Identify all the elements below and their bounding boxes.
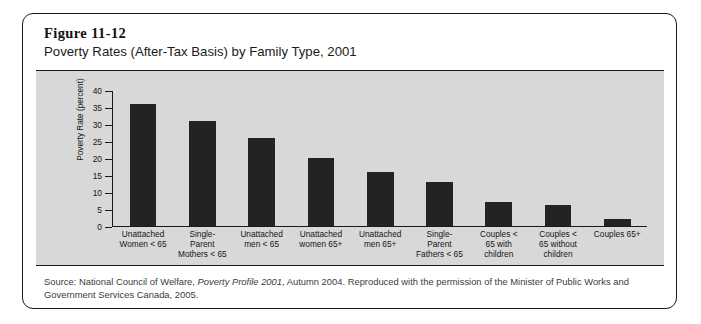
bar-series	[113, 91, 647, 226]
x-axis-label: Unattachedwomen 65+	[291, 229, 350, 249]
bar-slot	[232, 91, 291, 226]
x-axis-label-line: Parent	[411, 239, 468, 249]
bar	[545, 205, 572, 225]
bar-slot	[113, 91, 172, 226]
x-axis-label: Couples <65 withoutchildren	[528, 229, 587, 260]
y-axis-tick	[105, 91, 112, 92]
y-axis-tick-label: 30	[93, 120, 102, 130]
y-axis-tick-label: 15	[93, 171, 102, 181]
y-axis-tick-label: 25	[93, 137, 102, 147]
bar	[367, 172, 394, 226]
x-axis-label: Unattachedmen < 65	[232, 229, 291, 249]
y-axis-tick	[105, 176, 112, 177]
x-axis-label: Couples <65 withchildren	[469, 229, 528, 260]
figure-number: Figure 11-12	[44, 25, 660, 42]
bar	[426, 182, 453, 226]
chart-plot-panel: Poverty Rate (percent) 0510152025303540 …	[36, 70, 664, 266]
source-note: Source: National Council of Welfare, Pov…	[44, 275, 658, 302]
source-note-publication: Poverty Profile 2001	[198, 276, 282, 287]
y-axis-tick	[105, 159, 112, 160]
y-axis-tick-label: 10	[93, 188, 102, 198]
y-axis-tick-label: 35	[93, 103, 102, 113]
x-axis-label-line: Couples 65+	[589, 229, 646, 239]
y-axis-tick-label: 0	[97, 222, 102, 232]
y-axis-tick	[105, 210, 112, 211]
bar-slot	[588, 91, 647, 226]
x-axis-label-line: Unattached	[352, 229, 409, 239]
x-axis-label-line: Parent	[174, 239, 231, 249]
x-axis-label: Single-ParentMothers < 65	[173, 229, 232, 260]
bar	[485, 202, 512, 226]
bar	[604, 219, 631, 226]
figure-title: Poverty Rates (After-Tax Basis) by Famil…	[44, 43, 660, 60]
x-axis-label-line: Couples <	[470, 229, 527, 239]
y-axis-tick	[105, 142, 112, 143]
x-axis-label-line: children	[470, 249, 527, 259]
y-axis-title: Poverty Rate (percent)	[76, 68, 85, 172]
x-axis-label-line: Unattached	[233, 229, 290, 239]
x-axis-label-line: women 65+	[292, 239, 349, 249]
x-axis-label-line: Women < 65	[114, 239, 171, 249]
bar-slot	[528, 91, 587, 226]
x-axis-label-line: Fathers < 65	[411, 249, 468, 259]
y-axis-tick-label: 40	[93, 86, 102, 96]
bar-slot	[173, 91, 232, 226]
x-axis-label: UnattachedWomen < 65	[113, 229, 172, 249]
x-axis-label-line: Mothers < 65	[174, 249, 231, 259]
figure-card: Figure 11-12 Poverty Rates (After-Tax Ba…	[22, 13, 677, 309]
x-axis-label-line: Single-	[411, 229, 468, 239]
x-axis-label: Unattachedmen 65+	[351, 229, 410, 249]
bar-slot	[410, 91, 469, 226]
x-axis-label-line: Single-	[174, 229, 231, 239]
y-axis-tick	[105, 227, 112, 228]
chart-axes: 0510152025303540	[112, 91, 647, 227]
x-axis-labels: UnattachedWomen < 65Single-ParentMothers…	[113, 229, 647, 260]
x-axis-label-line: children	[529, 249, 586, 259]
x-axis-line	[112, 226, 647, 227]
bar-slot	[469, 91, 528, 226]
figure-header: Figure 11-12 Poverty Rates (After-Tax Ba…	[44, 25, 660, 60]
bar	[308, 158, 335, 225]
y-axis-tick	[105, 125, 112, 126]
x-axis-label-line: men 65+	[352, 239, 409, 249]
x-axis-label-line: 65 with	[470, 239, 527, 249]
bar-slot	[291, 91, 350, 226]
x-axis-label-line: Couples <	[529, 229, 586, 239]
x-axis-label: Single-ParentFathers < 65	[410, 229, 469, 260]
x-axis-label-line: men < 65	[233, 239, 290, 249]
y-axis-tick	[105, 193, 112, 194]
x-axis-label: Couples 65+	[588, 229, 647, 239]
source-note-prefix: Source: National Council of Welfare,	[44, 276, 198, 287]
x-axis-label-line: Unattached	[292, 229, 349, 239]
bar	[130, 104, 157, 225]
x-axis-label-line: Unattached	[114, 229, 171, 239]
x-axis-label-line: 65 without	[529, 239, 586, 249]
y-axis-tick-label: 5	[97, 205, 102, 215]
y-axis-tick	[105, 108, 112, 109]
bar-slot	[351, 91, 410, 226]
y-axis-tick-label: 20	[93, 154, 102, 164]
bar	[189, 121, 216, 225]
bar	[248, 138, 275, 225]
